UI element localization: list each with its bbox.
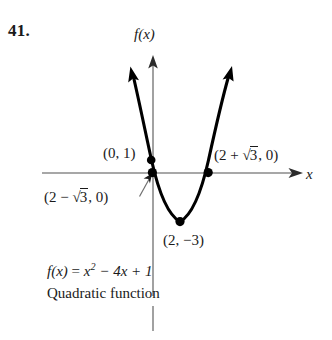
caption-note: Quadratic function (47, 283, 297, 303)
root-left-suffix: , 0) (88, 189, 108, 205)
point-root-left (148, 168, 157, 177)
parabola-curve (128, 66, 233, 222)
equation-rest: − 4x + 1 (99, 263, 152, 279)
point-vertex (175, 217, 184, 226)
root-right-prefix: (2 + (214, 147, 242, 163)
point-label-y-intercept: (0, 1) (103, 146, 136, 162)
y-axis-label: f(x) (134, 27, 155, 43)
point-label-root-right: (2 + √3, 0) (214, 148, 278, 164)
point-label-vertex: (2, −3) (163, 233, 204, 249)
figure-container: 41. (0, 0, 332, 340)
equation-exponent: 2 (90, 261, 95, 272)
caption-block: f(x) = x2 − 4x + 1 Quadratic function (47, 262, 297, 303)
leader-line-root-left (140, 174, 153, 197)
x-axis (42, 168, 303, 178)
point-root-right (204, 168, 213, 177)
root-right-radicand: 3 (250, 146, 259, 163)
point-label-root-left: (2 − √3, 0) (44, 190, 108, 206)
equation-equals: = (72, 263, 80, 279)
point-y-intercept (147, 156, 156, 165)
sqrt-icon: √3 (72, 189, 88, 205)
plot-points (147, 156, 213, 227)
caption-equation: f(x) = x2 − 4x + 1 (47, 262, 297, 282)
sqrt-icon: √3 (242, 147, 258, 163)
root-left-prefix: (2 − (44, 189, 72, 205)
x-axis-label: x (306, 167, 313, 183)
root-right-suffix: , 0) (258, 147, 278, 163)
root-left-radicand: 3 (80, 188, 89, 205)
equation-lhs: f(x) (47, 263, 68, 279)
